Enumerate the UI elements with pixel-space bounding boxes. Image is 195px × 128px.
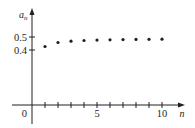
data-point [69,40,72,43]
data-point [134,38,137,41]
x-axis-label: n [180,108,185,119]
data-point [82,39,85,42]
data-point [160,38,163,41]
y-tick-label-0.5: 0.5 [14,32,27,43]
data-point [121,38,124,41]
data-points [43,38,163,49]
data-point [147,38,150,41]
data-point [95,39,98,42]
y-tick-label-0.4: 0.4 [14,45,28,56]
y-axis-label: an [19,9,28,22]
y-axis-arrow-icon [30,8,35,15]
sequence-plot: an 0.5 0.4 0 5 10 n [0,0,195,128]
data-point [43,45,46,48]
data-point [108,38,111,41]
x-tick-label-5: 5 [94,108,99,119]
data-point [56,41,59,44]
origin-label: 0 [22,108,27,119]
x-tick-label-10: 10 [157,108,168,119]
x-axis-arrow-icon [178,103,185,108]
